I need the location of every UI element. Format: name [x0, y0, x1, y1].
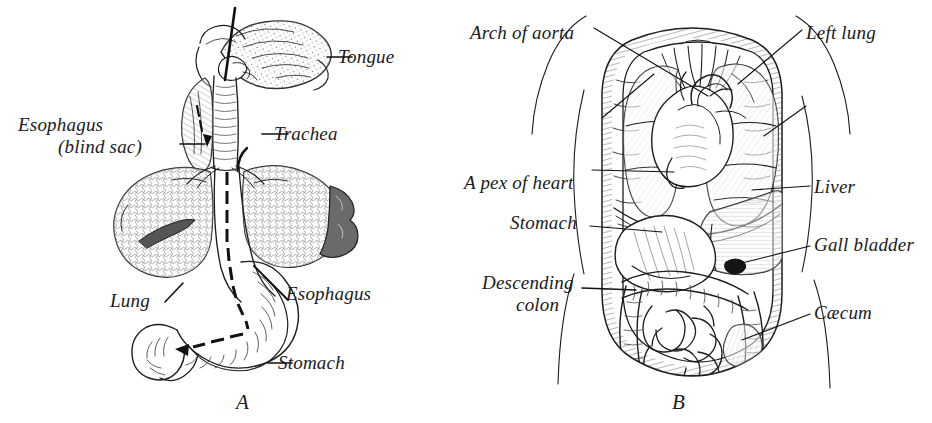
label-caecum: Cæcum: [814, 302, 872, 323]
label-esophagus-blind-sac-line2: (blind sac): [58, 136, 142, 157]
label-tongue: Tongue: [338, 46, 394, 67]
label-descending-colon-line1: Descending: [482, 272, 574, 293]
label-apex-of-heart: A pex of heart: [464, 172, 574, 193]
anatomical-figure: Tongue Esophagus (blind sac) Trachea Lun…: [0, 0, 932, 423]
label-left-lung: Left lung: [806, 22, 876, 43]
panel-a-illustration: [0, 0, 466, 423]
label-stomach: Stomach: [278, 352, 345, 373]
label-descending-colon-line2: colon: [516, 294, 559, 315]
panel-b: Arch of aorta Left lung A pex of heart S…: [466, 0, 932, 423]
label-esophagus: Esophagus: [286, 283, 371, 304]
label-trachea: Trachea: [274, 123, 338, 144]
label-liver: Liver: [814, 176, 855, 197]
label-lung: Lung: [110, 290, 150, 311]
panel-a: Tongue Esophagus (blind sac) Trachea Lun…: [0, 0, 466, 423]
label-esophagus-blind-sac-line1: Esophagus: [18, 114, 103, 135]
caption-a: A: [236, 390, 249, 415]
frog-viscera-drawing: [0, 0, 466, 423]
label-gall-bladder: Gall bladder: [814, 234, 914, 255]
label-arch-of-aorta: Arch of aorta: [470, 22, 574, 43]
caption-b: B: [672, 390, 685, 415]
label-stomach: Stomach: [510, 212, 577, 233]
